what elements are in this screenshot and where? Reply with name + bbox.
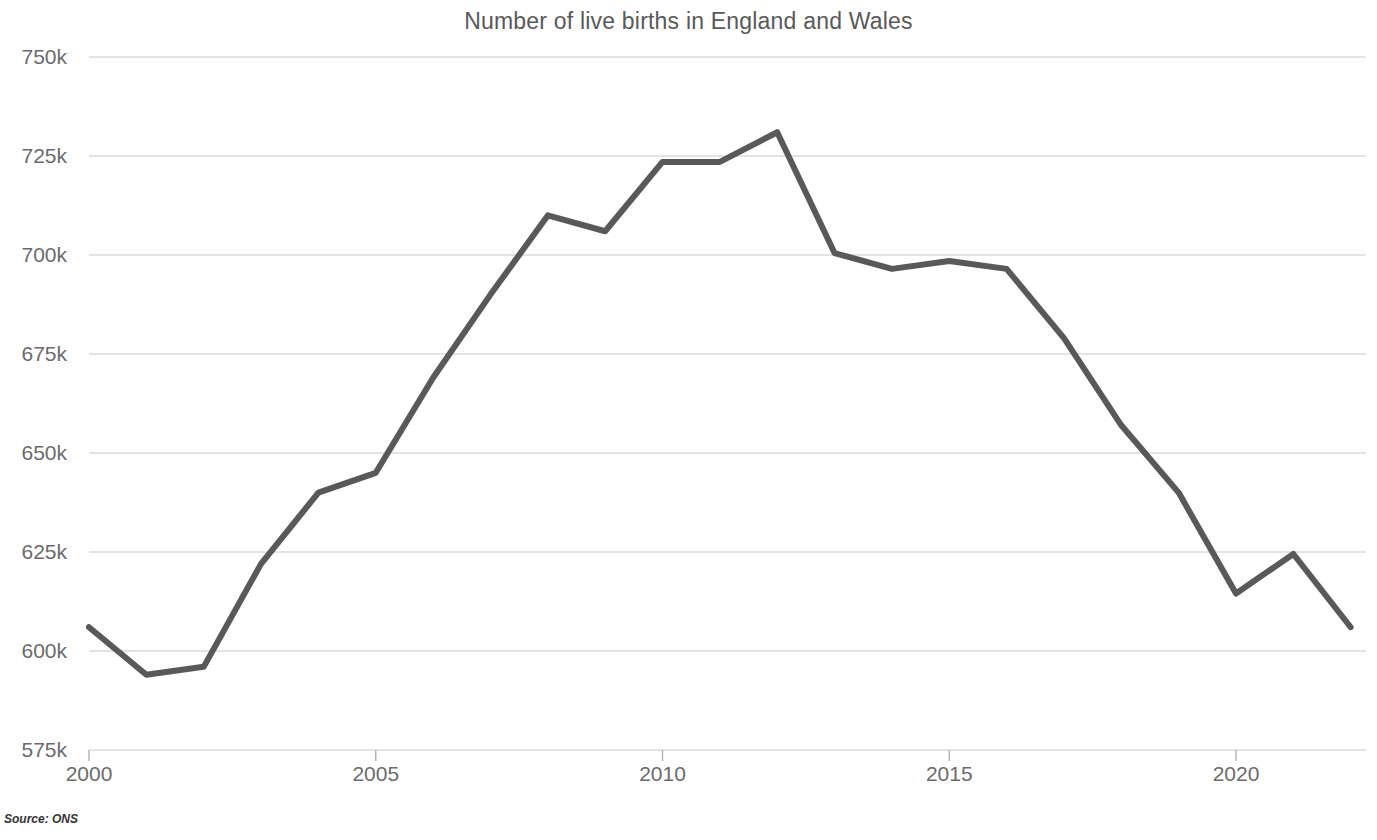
y-axis-tick-label: 675k <box>0 342 67 366</box>
plot-area: 750k725k700k675k650k625k600k575k 2000200… <box>0 0 1377 840</box>
x-axis-tick-label: 2015 <box>926 762 973 786</box>
y-axis-tick-label: 750k <box>0 45 67 69</box>
y-axis-tick-label: 650k <box>0 441 67 465</box>
y-axis-tick-label: 700k <box>0 243 67 267</box>
chart-container: Number of live births in England and Wal… <box>0 0 1377 840</box>
x-axis-group <box>89 750 1236 761</box>
x-axis-tick-label: 2020 <box>1213 762 1260 786</box>
x-axis-tick-label: 2010 <box>639 762 686 786</box>
data-line-live-births <box>89 132 1351 675</box>
y-axis-tick-label: 600k <box>0 639 67 663</box>
data-series-group <box>89 132 1351 675</box>
y-axis-tick-label: 575k <box>0 738 67 762</box>
line-chart-svg <box>0 0 1377 840</box>
x-axis-tick-label: 2000 <box>66 762 113 786</box>
y-axis-tick-label: 625k <box>0 540 67 564</box>
source-note: Source: ONS <box>4 812 78 826</box>
y-axis-tick-label: 725k <box>0 144 67 168</box>
x-axis-tick-label: 2005 <box>352 762 399 786</box>
